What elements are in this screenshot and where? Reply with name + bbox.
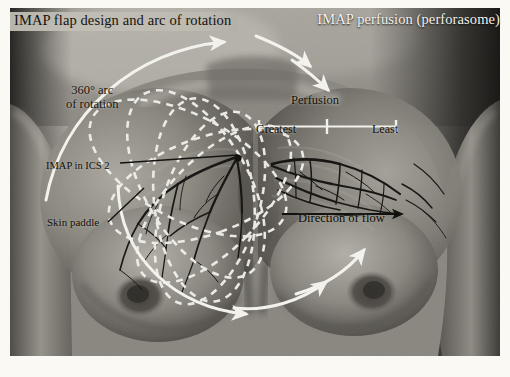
angiogram-plate [10, 8, 500, 356]
figure-container: IMAP flap design and arc of rotation IMA… [0, 0, 510, 377]
label-arc-of-rotation-line2: of rotation [66, 98, 118, 112]
label-arc-of-rotation-line1: 360° arc [66, 84, 118, 98]
label-skin-paddle: Skin paddle [47, 217, 99, 229]
figure-artwork [10, 8, 500, 356]
label-arc-of-rotation: 360° arc of rotation [66, 84, 118, 111]
label-perfusion: Perfusion [291, 94, 339, 108]
panel-title-left: IMAP flap design and arc of rotation [10, 12, 237, 31]
panel-title-right: IMAP perfusion (perforasome) [317, 12, 500, 28]
label-perfusion-greatest: Greatest [256, 123, 296, 136]
label-imap-in-ics-2: IMAP in ICS 2 [46, 160, 110, 171]
label-perfusion-least: Least [372, 123, 398, 136]
label-direction-of-flow: Direction of flow [298, 212, 385, 226]
